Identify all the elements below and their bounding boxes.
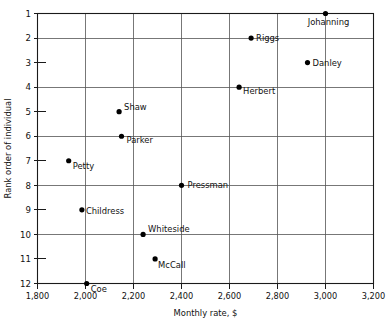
y-tick-label: 3 (26, 58, 31, 68)
y-tick-label: 5 (26, 107, 31, 117)
x-tick-label: 2,200 (122, 291, 145, 301)
scatter-chart: 1,8002,0002,2002,4002,6002,8003,0003,200… (0, 0, 392, 331)
data-point-label: McCall (158, 260, 185, 270)
data-point-label: Danley (313, 58, 342, 68)
y-axis-title: Rank order of individual (3, 99, 13, 199)
y-tick-label: 2 (26, 33, 31, 43)
x-tick-label: 2,600 (218, 291, 241, 301)
data-point-label: Shaw (124, 102, 147, 112)
data-point (79, 207, 84, 212)
data-point-label: Whiteside (148, 224, 190, 234)
y-tick-label: 4 (26, 82, 31, 92)
y-tick-label: 8 (26, 181, 31, 191)
chart-svg: 1,8002,0002,2002,4002,6002,8003,0003,200… (0, 0, 392, 331)
data-point-label: Parker (127, 135, 154, 145)
data-point (237, 85, 242, 90)
x-axis-title: Monthly rate, $ (174, 308, 238, 318)
data-point-label: Riggs (256, 33, 279, 43)
y-tick-label: 6 (26, 131, 31, 141)
data-point (117, 109, 122, 114)
data-point-label: Pressman (188, 180, 229, 190)
data-point (249, 35, 254, 40)
data-point (84, 281, 89, 286)
x-tick-label: 2,800 (266, 291, 289, 301)
data-point (141, 232, 146, 237)
y-tick-label: 11 (20, 254, 31, 264)
x-tick-label: 1,800 (26, 291, 49, 301)
x-tick-label: 3,200 (362, 291, 385, 301)
data-point (179, 183, 184, 188)
data-point (305, 60, 310, 65)
data-point-label: Petty (73, 161, 94, 171)
y-tick-label: 1 (26, 9, 31, 19)
chart-background (0, 0, 392, 331)
data-point (153, 256, 158, 261)
data-point-label: Coe (91, 284, 107, 294)
data-point (66, 158, 71, 163)
x-tick-label: 3,000 (314, 291, 337, 301)
y-tick-label: 7 (26, 156, 31, 166)
data-point (323, 11, 328, 16)
data-point (119, 134, 124, 139)
y-tick-label: 9 (26, 205, 31, 215)
data-point-label: Herbert (243, 86, 276, 96)
data-point-label: Childress (86, 206, 124, 216)
x-tick-label: 2,400 (170, 291, 193, 301)
y-tick-label: 10 (20, 230, 31, 240)
data-point-label: Johanning (307, 17, 350, 27)
y-tick-label: 12 (20, 279, 31, 289)
